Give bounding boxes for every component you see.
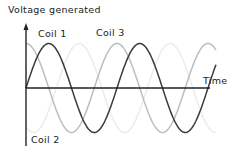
axis-arrow-icon <box>24 23 29 30</box>
x-axis-label: Time <box>203 75 227 86</box>
coil2-label: Coil 2 <box>31 134 60 145</box>
y-axis-label: Voltage generated <box>8 4 101 15</box>
coil1-label: Coil 1 <box>38 28 67 39</box>
coil3-label: Coil 3 <box>96 27 125 38</box>
